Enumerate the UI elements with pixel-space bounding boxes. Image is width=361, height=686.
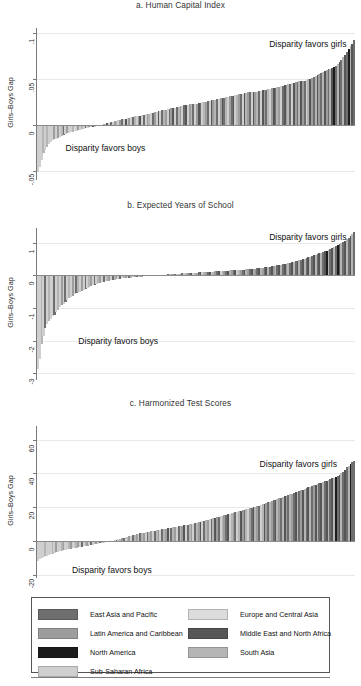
legend-item: North America <box>38 643 183 662</box>
bar-series <box>37 426 355 578</box>
legend-column-left: East Asia and PacificLatin America and C… <box>38 605 183 681</box>
legend-item: Middle East and North Africa <box>188 624 331 643</box>
y-axis-title: Girls–Boys Gap <box>6 63 15 143</box>
panel-c-title: c. Harmonized Test Scores <box>0 398 361 408</box>
y-tick-label: 1 <box>28 241 35 261</box>
y-tick-label: 0 <box>28 123 35 143</box>
legend-swatch <box>188 628 228 639</box>
annotation-favors-boys: Disparity favors boys <box>78 336 158 346</box>
y-tick-label: -3 <box>28 372 35 392</box>
legend: East Asia and PacificLatin America and C… <box>31 597 330 673</box>
plot-area <box>37 426 355 578</box>
panel-harmonized-test-scores: c. Harmonized Test Scores 6040200-20Girl… <box>0 398 361 594</box>
annotation-favors-boys: Disparity favors boys <box>72 565 152 575</box>
annotation-favors-girls: Disparity favors girls <box>260 459 337 469</box>
zero-reference-line <box>37 541 355 542</box>
bar-series <box>37 28 355 180</box>
legend-item: South Asia <box>188 643 331 662</box>
legend-label: Latin America and Caribbean <box>90 629 183 638</box>
y-tick-label: 20 <box>28 506 35 526</box>
figure-root: a. Human Capital Index .1.050-.05Girls–B… <box>0 0 361 686</box>
panel-a-title: a. Human Capital Index <box>0 0 361 10</box>
y-tick-label: -2 <box>28 339 35 359</box>
panel-expected-years-of-school: b. Expected Years of School 10-1-2-3Girl… <box>0 200 361 396</box>
plot-area <box>37 228 355 380</box>
bar <box>353 40 355 125</box>
legend-swatch <box>38 647 78 658</box>
legend-swatch <box>38 666 78 677</box>
legend-label: North America <box>90 648 136 657</box>
legend-label: Middle East and North Africa <box>240 629 331 638</box>
bar <box>353 461 355 541</box>
y-tick-label: -20 <box>28 573 35 593</box>
y-tick-label: .05 <box>28 77 35 97</box>
legend-item: Latin America and Caribbean <box>38 624 183 643</box>
y-axis-title: Girls–Boys Gap <box>6 263 15 343</box>
y-tick-label: -1 <box>28 307 35 327</box>
y-tick-label: 40 <box>28 472 35 492</box>
zero-reference-line <box>37 275 355 276</box>
legend-item: East Asia and Pacific <box>38 605 183 624</box>
legend-bottom-rule <box>31 677 330 678</box>
annotation-favors-girls: Disparity favors girls <box>269 39 346 49</box>
panel-human-capital-index: a. Human Capital Index .1.050-.05Girls–B… <box>0 0 361 196</box>
legend-label: South Asia <box>240 648 274 657</box>
annotation-favors-boys: Disparity favors boys <box>66 143 146 153</box>
legend-swatch <box>38 609 78 620</box>
plot-area <box>37 28 355 180</box>
y-tick-label: 0 <box>28 274 35 294</box>
y-tick-label: 0 <box>28 539 35 559</box>
y-tick-label: -.05 <box>28 169 35 189</box>
legend-label: East Asia and Pacific <box>90 610 157 619</box>
y-tick-label: 60 <box>28 438 35 458</box>
legend-item: Europe and Central Asia <box>188 605 331 624</box>
panel-b-title: b. Expected Years of School <box>0 200 361 210</box>
annotation-favors-girls: Disparity favors girls <box>269 232 346 242</box>
legend-swatch <box>188 647 228 658</box>
y-tick-label: .1 <box>28 31 35 51</box>
bar-series <box>37 228 355 380</box>
legend-item: Sub-Saharan Africa <box>38 662 183 681</box>
legend-swatch <box>38 628 78 639</box>
legend-label: Sub-Saharan Africa <box>90 667 152 676</box>
y-axis-title: Girls–Boys Gap <box>6 461 15 541</box>
legend-swatch <box>188 609 228 620</box>
zero-reference-line <box>37 125 355 126</box>
legend-label: Europe and Central Asia <box>240 610 318 619</box>
legend-column-right: Europe and Central AsiaMiddle East and N… <box>188 605 331 662</box>
bar <box>353 232 355 275</box>
